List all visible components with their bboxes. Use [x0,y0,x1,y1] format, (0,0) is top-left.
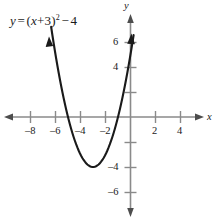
parabola-curve [46,27,135,167]
y-tick-label-neg6: –6 [108,187,119,198]
x-axis [4,114,204,121]
y-tick-label-4: 4 [113,62,118,73]
x-tick-label-neg8: –8 [25,126,36,137]
x-tick-label-neg6: –6 [50,126,61,137]
x-tick-label-2: 2 [152,126,157,137]
y-tick-label-neg4: –4 [108,162,119,173]
equation-outer-const: 4 [71,13,78,28]
parabola-figure: y=(x+3)2−4 x y –8 –6 –4 –2 2 4 6 4 –4 –6 [0,0,217,220]
equation-minus: − [60,13,71,28]
equation-plus: + [37,13,45,28]
equation-label: y=(x+3)2−4 [10,14,77,27]
y-axis-name: y [124,1,129,12]
x-tick-label-neg4: –4 [75,126,86,137]
x-tick-label-4: 4 [177,126,182,137]
equation-equals: = [16,13,27,28]
x-tick-label-neg2: –2 [100,126,111,137]
x-axis-name: x [207,112,212,123]
y-tick-label-6: 6 [113,37,118,48]
